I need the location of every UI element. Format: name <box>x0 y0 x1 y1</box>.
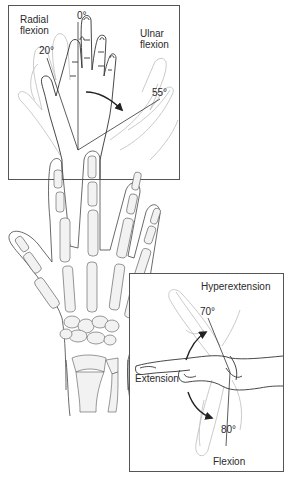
ulnar-angle-label: 55° <box>152 87 167 98</box>
wrist-motion-diagram <box>0 0 289 480</box>
hyperextension-label: Hyperextension <box>201 281 270 292</box>
ulnar-flexion-label: Ulnar flexion <box>140 28 169 50</box>
radial-flexion-label: Radial flexion <box>20 14 49 36</box>
flexion-label: Flexion <box>213 456 245 467</box>
radial-angle-label: 20° <box>39 45 54 56</box>
neutral-angle-label: 0° <box>77 10 87 21</box>
extension-label: Extension <box>135 373 179 384</box>
hyperextension-angle-label: 70° <box>200 306 215 317</box>
flexion-angle-label: 80° <box>221 424 236 435</box>
